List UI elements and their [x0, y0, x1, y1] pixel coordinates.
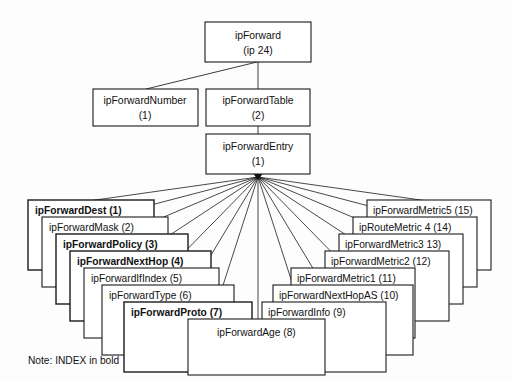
columns-center-group: ipForwardAge (8) [188, 319, 325, 375]
column-label-metric3: ipForwardMetric3 13) [345, 239, 441, 250]
column-label-metric2: ipForwardMetric2 (12) [331, 256, 431, 267]
node-ip-forward-table-line1: ipForwardTable [222, 95, 293, 106]
column-label-age: ipForwardAge (8) [217, 327, 296, 338]
node-ip-forward-table-line2: (2) [252, 110, 265, 121]
node-ip-forward-line2: (ip 24) [243, 45, 272, 56]
column-label-mask: ipForwardMask (2) [49, 222, 134, 233]
node-ip-forward-number-line1: ipForwardNumber [103, 95, 187, 106]
node-ip-forward-entry[interactable]: ipForwardEntry (1) [206, 134, 310, 174]
connector-forward-to-number [146, 62, 257, 89]
node-ip-forward-number-line2: (1) [139, 110, 152, 121]
column-label-proto: ipForwardProto (7) [131, 307, 222, 318]
column-label-nexthopas: ipForwardNextHopAS (10) [279, 290, 398, 301]
column-box-age[interactable]: ipForwardAge (8) [188, 319, 325, 375]
column-label-type: ipForwardType (6) [109, 290, 192, 301]
column-label-nexthop: ipForwardNextHop (4) [77, 256, 183, 267]
column-label-metric4: ipRouteMetric 4 (14) [359, 222, 451, 233]
column-label-metric1: ipForwardMetric1 (11) [297, 273, 396, 284]
node-ip-forward-entry-line2: (1) [252, 156, 265, 167]
column-label-policy: ipForwardPolicy (3) [63, 239, 158, 250]
column-label-dest: ipForwardDest (1) [35, 205, 122, 216]
column-label-ifindex: ipForwardIfIndex (5) [91, 273, 182, 284]
column-label-info: ipForwardInfo (9) [268, 307, 346, 318]
diagram-canvas: ipForwardMetric5 (15) ipRouteMetric 4 (1… [0, 0, 513, 382]
node-ip-forward-entry-line1: ipForwardEntry [223, 141, 294, 152]
column-label-metric5: ipForwardMetric5 (15) [373, 205, 473, 216]
node-ip-forward-table[interactable]: ipForwardTable (2) [206, 89, 310, 126]
mib-tree-diagram: ipForwardMetric5 (15) ipRouteMetric 4 (1… [0, 0, 513, 382]
node-ip-forward-line1: ipForward [235, 30, 281, 41]
node-ip-forward[interactable]: ipForward (ip 24) [205, 22, 311, 62]
node-ip-forward-number[interactable]: ipForwardNumber (1) [93, 89, 198, 126]
diagram-note: Note: INDEX in bold [28, 355, 119, 366]
